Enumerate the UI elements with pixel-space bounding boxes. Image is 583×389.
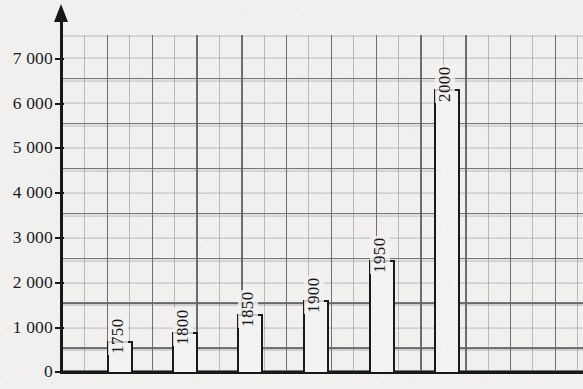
y-tick-5000 [55, 147, 64, 149]
bar-chart: 7 000 6 000 5 000 4 000 3 000 2 000 1 00… [0, 0, 583, 389]
bar-label-1800: 1800 [173, 308, 193, 346]
y-axis-label-7000: 7 000 [0, 48, 53, 69]
y-axis-label-2000: 2 000 [0, 272, 53, 293]
bar-label-2000: 2000 [435, 66, 455, 104]
y-tick-3000 [55, 237, 64, 239]
y-tick-2000 [55, 282, 64, 284]
y-tick-6000 [55, 103, 64, 105]
y-axis-label-4000: 4 000 [0, 182, 53, 203]
y-axis-label-6000: 6 000 [0, 93, 53, 114]
y-axis-label-1000: 1 000 [0, 317, 53, 338]
y-tick-4000 [55, 192, 64, 194]
bar-label-1750: 1750 [108, 317, 128, 355]
y-tick-0 [55, 371, 64, 373]
bar-label-1950: 1950 [370, 236, 390, 274]
y-tick-1000 [55, 327, 64, 329]
bar-label-1900: 1900 [304, 277, 324, 315]
y-axis-label-0: 0 [0, 361, 53, 382]
y-axis-arrowhead [54, 4, 68, 22]
bar-1950 [369, 260, 395, 372]
y-axis-label-3000: 3 000 [0, 227, 53, 248]
bar-label-1850: 1850 [238, 290, 258, 328]
y-tick-7000 [55, 58, 64, 60]
y-axis-label-5000: 5 000 [0, 137, 53, 158]
bar-2000 [434, 89, 460, 372]
